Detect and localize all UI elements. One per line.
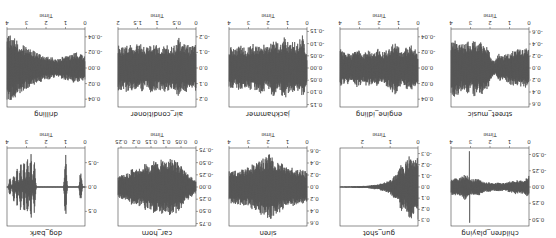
subplot-children-playing: -0.50-0.250.000.250.5001234Timechildren_… xyxy=(442,119,553,238)
x-axis-label: Time xyxy=(261,132,276,138)
x-tick-label: 0.05 xyxy=(174,139,187,145)
x-tick-label: 1.5 xyxy=(133,20,142,26)
y-tick-label: 0.4 xyxy=(310,208,319,214)
subplot-title: jackhammer xyxy=(213,110,324,118)
subplot-street-music: -0.6-0.4-0.20.00.20.40.601234Timestreet_… xyxy=(442,0,553,119)
x-tick-label: 4 xyxy=(227,139,231,145)
y-tick-label: 0.25 xyxy=(199,196,212,202)
x-tick-label: 0 xyxy=(416,139,420,145)
x-tick-label: 2 xyxy=(44,20,48,26)
waveform-line xyxy=(118,38,196,96)
x-tick-label: 1 xyxy=(286,139,290,145)
subplot-title: car_horn xyxy=(102,229,213,237)
y-tick-label: 0.2 xyxy=(421,206,430,212)
x-tick-label: 3 xyxy=(246,20,250,26)
y-tick-label: 0.00 xyxy=(532,184,545,190)
y-tick-label: -0.15 xyxy=(310,28,325,34)
x-tick-label: 3 xyxy=(24,139,28,145)
waveform-line xyxy=(340,44,418,94)
x-axis-label: Time xyxy=(261,13,276,19)
x-tick-label: 0.25 xyxy=(114,139,127,145)
y-tick-label: 0.00 xyxy=(310,65,323,71)
y-tick-label: -0.2 xyxy=(199,34,210,40)
x-tick-label: 3 xyxy=(246,139,250,145)
subplot-title: engine_idling xyxy=(324,110,435,118)
waveform-line xyxy=(229,154,307,218)
subplot-dog-bark: -0.50.00.501234Timedog_bark xyxy=(0,119,109,238)
y-tick-label: -0.04 xyxy=(88,34,103,40)
subplot-title: drilling xyxy=(0,110,102,118)
y-tick-label: 0.04 xyxy=(421,96,434,102)
x-tick-label: 2 xyxy=(266,139,270,145)
subplot-title: children_playing xyxy=(435,229,546,237)
y-tick-label: 0.2 xyxy=(310,196,319,202)
y-tick-label: 0.0 xyxy=(199,65,208,71)
waveform-line xyxy=(340,156,418,219)
x-axis-label: Time xyxy=(150,132,165,138)
y-tick-label: -0.25 xyxy=(532,168,547,174)
x-tick-label: 1 xyxy=(155,20,159,26)
y-tick-label: -0.2 xyxy=(310,172,321,178)
x-tick-label: 0 xyxy=(527,139,531,145)
y-tick-label: 0.0 xyxy=(421,184,430,190)
y-tick-label: 0.2 xyxy=(199,96,208,102)
y-tick-label: -0.02 xyxy=(421,49,435,55)
x-tick-label: 4 xyxy=(227,20,231,26)
y-tick-label: 0.00 xyxy=(88,65,101,71)
y-tick-label: 0.75 xyxy=(199,221,212,227)
y-tick-label: -0.3 xyxy=(421,151,432,157)
waveform-line xyxy=(451,151,529,223)
x-tick-label: 0 xyxy=(194,20,198,26)
x-tick-label: 4 xyxy=(449,139,453,145)
y-tick-label: 0.0 xyxy=(88,184,97,190)
x-tick-label: 4 xyxy=(5,20,9,26)
subplot-title: gun_shot xyxy=(324,229,435,237)
y-tick-label: -0.50 xyxy=(199,160,214,166)
y-tick-label: -0.05 xyxy=(310,53,325,59)
x-tick-label: 0.2 xyxy=(132,139,141,145)
y-tick-label: 0.05 xyxy=(310,77,323,83)
x-tick-label: 2 xyxy=(266,20,270,26)
x-axis-label: Time xyxy=(483,13,498,19)
x-tick-label: 2 xyxy=(488,139,492,145)
waveform-line xyxy=(451,41,529,97)
x-tick-label: 1 xyxy=(64,20,68,26)
x-tick-label: 0 xyxy=(527,20,531,26)
x-tick-label: 2 xyxy=(44,139,48,145)
x-tick-label: 1 xyxy=(397,20,401,26)
y-tick-label: 0.2 xyxy=(532,77,541,83)
y-tick-label: 0.0 xyxy=(310,184,319,190)
x-tick-label: 0 xyxy=(83,20,87,26)
y-tick-label: 0.6 xyxy=(310,220,319,226)
x-tick-label: 4 xyxy=(338,20,342,26)
y-tick-label: -0.10 xyxy=(310,41,325,47)
x-tick-label: 3 xyxy=(357,20,361,26)
y-tick-label: -0.50 xyxy=(532,152,547,158)
y-tick-label: -0.6 xyxy=(310,148,321,154)
subplot-jackhammer: -0.15-0.10-0.050.000.050.100.1501234Time… xyxy=(220,0,331,119)
y-tick-label: 0.15 xyxy=(310,102,323,108)
y-tick-label: 0.4 xyxy=(532,89,541,95)
y-tick-label: -0.1 xyxy=(421,173,432,179)
x-tick-label: 0.1 xyxy=(162,139,171,145)
y-tick-label: 0.0 xyxy=(532,65,541,71)
y-tick-label: -0.6 xyxy=(532,29,543,35)
y-tick-label: 0.25 xyxy=(532,200,545,206)
subplot-drilling: -0.04-0.020.000.020.0401234Timedrilling xyxy=(0,0,109,119)
y-tick-label: 0.50 xyxy=(199,208,212,214)
x-axis-label: Time xyxy=(150,13,165,19)
y-tick-label: 0.3 xyxy=(421,217,430,223)
x-tick-label: 0.15 xyxy=(144,139,157,145)
x-tick-label: 1 xyxy=(508,20,512,26)
y-tick-label: 0.1 xyxy=(421,195,430,201)
x-tick-label: 3 xyxy=(468,20,472,26)
waveform-line xyxy=(229,36,307,98)
y-tick-label: 0.02 xyxy=(421,81,433,87)
subplot-title: dog_bark xyxy=(0,229,102,237)
x-tick-label: 4 xyxy=(449,20,453,26)
x-tick-label: 0 xyxy=(305,139,309,145)
x-tick-label: 0 xyxy=(305,20,309,26)
waveform-line xyxy=(118,159,196,215)
waveform-line xyxy=(7,36,85,100)
figure: -0.50-0.250.000.250.5001234Timechildren_… xyxy=(0,0,556,238)
